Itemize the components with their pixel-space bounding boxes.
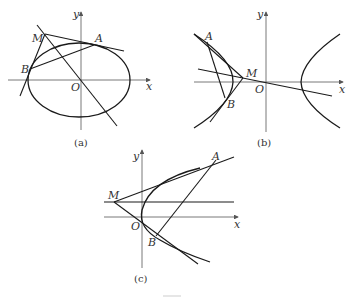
figure-canvas: y x O M A B (a) y x O M	[0, 0, 349, 301]
label-a: A	[94, 32, 103, 45]
label-y: y	[72, 8, 80, 21]
figure-caption-mark	[163, 295, 181, 297]
caption-c: (c)	[134, 273, 148, 284]
label-b: B	[147, 236, 156, 249]
label-m: M	[245, 67, 258, 80]
caption-b: (b)	[257, 137, 271, 148]
label-a: A	[204, 30, 213, 43]
line-mo	[198, 69, 332, 96]
panel-b: y x O M A B (b)	[194, 8, 346, 148]
label-m: M	[107, 189, 120, 202]
label-origin: O	[255, 83, 264, 96]
label-x: x	[339, 83, 346, 96]
label-a: A	[211, 150, 220, 163]
label-origin: O	[71, 81, 80, 94]
label-b: B	[20, 63, 29, 76]
panel-a: y x O M A B (a)	[8, 8, 153, 148]
tangent-ma	[114, 157, 234, 202]
label-x: x	[234, 218, 241, 231]
caption-a: (a)	[74, 137, 88, 148]
label-m: M	[31, 32, 44, 45]
hyperbola-right-branch	[301, 34, 340, 128]
line-mo	[37, 25, 117, 126]
panel-c: y x O M A B (c)	[104, 150, 241, 284]
tangent-mb	[114, 202, 198, 264]
label-x: x	[146, 80, 153, 93]
hyperbola-left-branch	[194, 34, 233, 128]
label-b: B	[226, 98, 235, 111]
label-y: y	[132, 150, 140, 163]
label-y: y	[256, 8, 264, 21]
label-origin: O	[131, 220, 140, 233]
tangent-ma	[194, 34, 243, 78]
